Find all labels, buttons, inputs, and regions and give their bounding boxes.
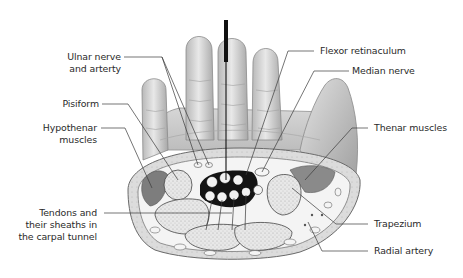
- label-ulnar-nerve-artery: Ulnar nerve and arterty: [67, 51, 121, 75]
- label-hypothenar-muscles: Hypothenar muscles: [43, 122, 97, 146]
- label-median-nerve: Median nerve: [352, 65, 415, 77]
- label-flexor-retinaculum: Flexor retinaculum: [320, 45, 406, 57]
- label-pisiform: Pisiform: [62, 98, 99, 110]
- label-thenar-muscles: Thenar muscles: [374, 122, 447, 134]
- label-radial-artery: Radial artery: [374, 245, 433, 257]
- label-tendons-sheaths: Tendons and their sheaths in the carpal …: [18, 207, 97, 243]
- label-trapezium: Trapezium: [374, 218, 421, 230]
- wrist-cross-section: [128, 148, 360, 259]
